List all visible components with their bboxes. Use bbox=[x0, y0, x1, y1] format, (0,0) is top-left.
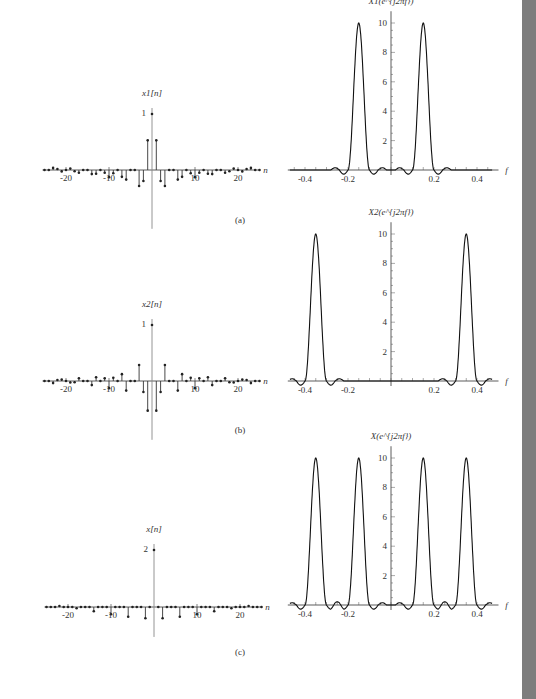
stem-dot bbox=[48, 380, 51, 383]
y-tick-label: 10 bbox=[378, 18, 388, 28]
stem-dot bbox=[48, 169, 51, 172]
stem-dot bbox=[204, 606, 207, 609]
stem-dot bbox=[191, 606, 194, 609]
stem-dot bbox=[121, 373, 124, 376]
stem-dot bbox=[247, 605, 250, 608]
time-axis-label: n bbox=[263, 376, 268, 386]
y-tick-label: 4 bbox=[383, 106, 388, 116]
stem-dot bbox=[65, 380, 68, 383]
freq-tick-label: 0.4 bbox=[471, 174, 483, 184]
stem-dot bbox=[65, 169, 68, 172]
time-tick-label: 20 bbox=[234, 173, 244, 183]
stem-dot bbox=[91, 173, 94, 176]
y-tick-label: 8 bbox=[383, 47, 388, 57]
stem-dot bbox=[250, 167, 253, 170]
stem-dot bbox=[80, 606, 83, 609]
freq-tick-label: 0.2 bbox=[428, 609, 439, 619]
stem-dot bbox=[75, 607, 78, 610]
stem-dot bbox=[88, 606, 91, 609]
stem-dot bbox=[43, 169, 46, 172]
freq-tick-label: 0.4 bbox=[471, 385, 483, 395]
panel-a bbox=[43, 11, 499, 229]
stem-dot bbox=[146, 409, 149, 412]
stem-dot bbox=[86, 169, 89, 172]
stem-dot bbox=[222, 606, 225, 609]
freq-tick-label: -0.4 bbox=[298, 609, 313, 619]
stem-dot bbox=[50, 606, 53, 609]
freq-axis-label: f bbox=[505, 376, 509, 386]
stem-dot bbox=[73, 170, 76, 173]
freq-axis-label: f bbox=[505, 600, 509, 610]
stem-dot bbox=[168, 380, 171, 383]
stem-dot bbox=[138, 364, 141, 367]
freq-plot-title: X2(e^{j2πf}) bbox=[368, 207, 414, 217]
stem-dot bbox=[153, 549, 156, 552]
y-tick-label: 6 bbox=[383, 288, 388, 298]
stem-dot bbox=[151, 324, 154, 327]
stem-dot bbox=[146, 139, 149, 142]
stem-dot bbox=[138, 185, 141, 188]
stem-dot bbox=[161, 617, 164, 620]
time-tick-label: 20 bbox=[234, 384, 244, 394]
stem-dot bbox=[140, 606, 143, 609]
stem-dot bbox=[187, 606, 190, 609]
stem-dot bbox=[121, 176, 124, 179]
stem-dot bbox=[148, 606, 151, 609]
stem-dot bbox=[237, 169, 240, 172]
stem-dot bbox=[220, 380, 223, 383]
freq-tick-label: -0.2 bbox=[341, 385, 355, 395]
stem-dot bbox=[252, 606, 255, 609]
stem-dot bbox=[91, 384, 94, 387]
stem-dot bbox=[166, 606, 169, 609]
stem-dot bbox=[228, 170, 231, 173]
stem-dot bbox=[123, 606, 126, 609]
stem-dot bbox=[174, 606, 177, 609]
y-tick-label: 10 bbox=[378, 453, 388, 463]
stem-dot bbox=[127, 615, 130, 618]
stem-dot bbox=[179, 615, 182, 618]
time-plot-title: x2[n] bbox=[141, 299, 162, 309]
freq-tick-label: 0.2 bbox=[428, 385, 439, 395]
freq-tick-label: -0.4 bbox=[298, 385, 313, 395]
stem-dot bbox=[243, 606, 246, 609]
stem-dot bbox=[258, 169, 261, 172]
stem-dot bbox=[142, 391, 145, 394]
stem-dot bbox=[43, 380, 46, 383]
stem-dot bbox=[155, 139, 158, 142]
stem-dot bbox=[155, 409, 158, 412]
freq-plot-title: X(e^{j2πf}) bbox=[370, 431, 412, 441]
stem-dot bbox=[202, 169, 205, 172]
stem-dot bbox=[93, 610, 96, 613]
stem-dot bbox=[86, 380, 89, 383]
stem-dot bbox=[52, 382, 55, 385]
y-tick-label: 10 bbox=[378, 229, 388, 239]
stem-dot bbox=[131, 606, 134, 609]
stem-dot bbox=[245, 379, 248, 382]
stem-dot bbox=[224, 377, 227, 380]
freq-tick-label: -0.4 bbox=[298, 174, 313, 184]
stem-dot bbox=[215, 169, 218, 172]
stem-dot bbox=[151, 113, 154, 116]
time-tick-label: -20 bbox=[60, 173, 72, 183]
stem-dot bbox=[189, 376, 192, 379]
stem-dot bbox=[69, 167, 72, 170]
panel-label: (c) bbox=[235, 647, 245, 657]
stem-dot bbox=[185, 169, 188, 172]
stem-dot bbox=[67, 606, 70, 609]
stem-dot bbox=[213, 610, 216, 613]
stem-dot bbox=[134, 380, 137, 383]
y-tick-label: 6 bbox=[383, 77, 388, 87]
stem-dot bbox=[60, 378, 63, 381]
time-tick-label: 10 bbox=[193, 610, 203, 620]
stem-dot bbox=[241, 378, 244, 381]
stem-dot bbox=[172, 380, 175, 383]
time-axis-label: n bbox=[265, 602, 270, 612]
stem-dot bbox=[215, 380, 218, 383]
stem-dot bbox=[78, 172, 81, 175]
stem-dot bbox=[129, 380, 132, 383]
stem-dot bbox=[170, 606, 173, 609]
stem-dot bbox=[232, 167, 235, 170]
freq-plot-title: X1(e^{j2πf}) bbox=[368, 0, 414, 6]
stem-dot bbox=[234, 606, 237, 609]
stem-dot bbox=[172, 169, 175, 172]
